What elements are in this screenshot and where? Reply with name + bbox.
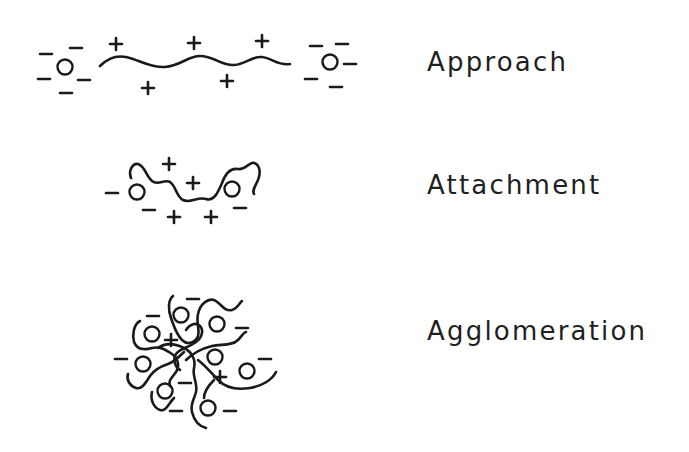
plus-icon bbox=[110, 38, 122, 50]
particle-circle bbox=[208, 350, 223, 365]
particle-circle bbox=[225, 182, 240, 197]
particle-circle bbox=[174, 308, 189, 323]
particle-circle bbox=[240, 364, 255, 379]
polymer-chain-approach bbox=[100, 56, 290, 67]
plus-icon bbox=[168, 211, 180, 223]
plus-icon bbox=[188, 37, 200, 49]
particles bbox=[58, 55, 338, 416]
stage-label-agglomeration: Agglomeration bbox=[427, 318, 647, 344]
particle-circle bbox=[145, 327, 160, 342]
stage-label-attachment: Attachment bbox=[427, 172, 601, 198]
particle-circle bbox=[58, 60, 73, 75]
plus-icon bbox=[256, 35, 268, 47]
stage-label-approach: Approach bbox=[427, 49, 568, 75]
particle-circle bbox=[323, 55, 338, 70]
plus-icon bbox=[221, 75, 233, 87]
particle-circle bbox=[201, 401, 216, 416]
particle-circle bbox=[210, 317, 225, 332]
particle-circle bbox=[158, 384, 173, 399]
particle-circle bbox=[136, 357, 151, 372]
plus-icon bbox=[205, 211, 217, 223]
plus-icon bbox=[187, 177, 199, 189]
flocculation-diagram bbox=[0, 0, 689, 452]
plus-icon bbox=[142, 82, 154, 94]
negative-charges bbox=[38, 44, 356, 411]
plus-icon bbox=[214, 371, 226, 383]
particle-circle bbox=[130, 185, 145, 200]
plus-icon bbox=[163, 158, 175, 170]
